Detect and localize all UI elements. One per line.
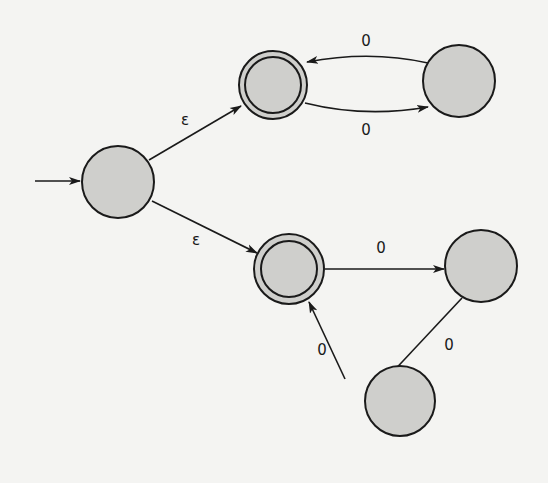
edge-q5-q3 <box>309 302 345 379</box>
label-q4-q5: 0 <box>444 336 454 354</box>
state-q1-accepting <box>239 51 307 119</box>
label-eps-bottom: ε <box>192 231 200 249</box>
edge-q2-q1 <box>307 56 428 63</box>
label-eps-top: ε <box>181 111 189 129</box>
label-q3-q4: 0 <box>376 239 386 257</box>
nfa-diagram: ε ε 0 0 0 0 0 <box>0 0 548 483</box>
state-q2 <box>423 45 495 117</box>
state-q0-start <box>82 146 154 218</box>
edge-q1-q2 <box>305 103 428 112</box>
state-q5 <box>365 366 435 436</box>
edge-q0-q3 <box>152 201 257 253</box>
state-q4 <box>445 230 517 302</box>
state-q3-accepting <box>254 234 324 304</box>
label-q5-q3: 0 <box>317 341 327 359</box>
edge-q0-q1 <box>149 106 241 160</box>
label-q2-q1: 0 <box>361 32 371 50</box>
label-q1-q2: 0 <box>361 121 371 139</box>
